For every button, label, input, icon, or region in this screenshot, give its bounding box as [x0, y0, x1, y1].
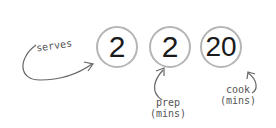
serves-circle: 2	[96, 26, 138, 68]
cook-label-sub: (mins)	[220, 95, 256, 106]
cook-label-text: cook	[220, 84, 256, 95]
cook-value: 20	[205, 31, 236, 63]
prep-circle: 2	[149, 26, 191, 68]
cook-circle: 20	[200, 26, 242, 68]
prep-label: prep(mins)	[150, 97, 186, 119]
serves-value: 2	[109, 30, 126, 64]
prep-label-sub: (mins)	[150, 108, 186, 119]
prep-value: 2	[162, 30, 179, 64]
cook-label: cook(mins)	[220, 84, 256, 106]
prep-label-text: prep	[150, 97, 186, 108]
hand-drawn-arrows	[0, 0, 276, 128]
